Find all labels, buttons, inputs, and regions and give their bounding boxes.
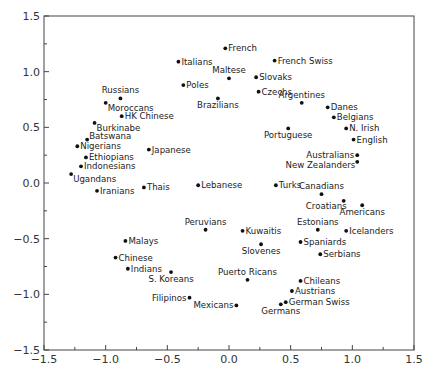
data-point: Slovenes [242, 242, 281, 256]
point-label: Brazilians [197, 100, 239, 110]
data-point: Malays [124, 236, 159, 246]
point-marker [204, 228, 208, 232]
point-label: Maltese [212, 65, 246, 75]
data-point: Belgians [332, 112, 374, 122]
data-point: Australians [306, 150, 359, 160]
data-point: Portuguese [264, 127, 312, 141]
point-label: Malays [128, 236, 158, 246]
point-label: Peruvians [185, 217, 227, 227]
data-point: Canadians [299, 181, 345, 196]
point-label: Slovaks [259, 72, 292, 82]
data-point: Serbians [318, 249, 361, 259]
data-point: N. Irish [344, 123, 379, 133]
y-tick-label: 1.0 [23, 66, 41, 79]
data-point: Indonesians [79, 161, 136, 171]
point-marker [223, 46, 227, 50]
data-point: Iranians [95, 186, 135, 196]
point-label: Filipinos [152, 293, 187, 303]
data-point: Nigerians [75, 141, 121, 151]
point-marker [79, 164, 83, 168]
point-label: S. Koreans [148, 274, 194, 284]
point-label: Spaniards [304, 237, 347, 247]
point-label: Russians [102, 85, 140, 95]
data-point: Poles [181, 80, 209, 90]
data-point: Chileans [299, 276, 341, 286]
data-point: Brazilians [197, 96, 239, 110]
y-tick-label: 0.0 [23, 177, 41, 190]
y-tick-label: −1.5 [13, 344, 40, 357]
point-marker [181, 83, 185, 87]
data-point: English [352, 135, 388, 145]
data-points: RussiansMoroccansHK ChineseBurkinabeBats… [69, 43, 394, 316]
point-marker [284, 300, 288, 304]
x-tick-label: −1.0 [92, 353, 119, 366]
point-label: HK Chinese [125, 111, 174, 121]
data-point: Indians [126, 264, 162, 274]
data-point: Icelanders [344, 226, 394, 236]
point-label: Japanese [151, 145, 191, 155]
point-label: Ugandans [73, 174, 117, 184]
point-label: Lebanese [201, 180, 242, 190]
point-marker [344, 229, 348, 233]
point-marker [355, 160, 359, 164]
point-label: French Swiss [278, 56, 334, 66]
point-marker [316, 228, 320, 232]
data-point: French Swiss [273, 56, 334, 66]
point-marker [326, 105, 330, 109]
point-label: Americans [340, 207, 386, 217]
point-label: Kuwaitis [246, 226, 282, 236]
y-tick-label: 0.5 [23, 121, 41, 134]
x-tick-label: 1.0 [344, 353, 362, 366]
point-marker [290, 289, 294, 293]
data-point: Turks [274, 180, 302, 190]
point-marker [235, 304, 239, 308]
point-marker [114, 256, 118, 260]
point-label: Thais [146, 182, 170, 192]
data-point: Spaniards [299, 237, 347, 247]
x-tick-label: 0.5 [282, 353, 300, 366]
point-marker [188, 296, 192, 300]
point-marker [318, 252, 322, 256]
point-label: New Zealanders [285, 160, 355, 170]
point-label: Slovenes [242, 246, 281, 256]
point-marker [344, 127, 348, 131]
point-label: Italians [181, 57, 213, 67]
point-marker [241, 229, 245, 233]
y-tick-label: −1.0 [13, 288, 40, 301]
point-label: Indonesians [84, 161, 136, 171]
point-marker [299, 279, 303, 283]
point-label: Poles [186, 80, 209, 90]
x-tick-label: 1.5 [405, 353, 423, 366]
point-label: Belgians [337, 112, 374, 122]
point-marker [274, 183, 278, 187]
data-point: Peruvians [185, 217, 227, 232]
point-marker [352, 138, 356, 142]
data-point: Maltese [212, 65, 246, 80]
point-label: French [228, 43, 257, 53]
point-label: Chinese [119, 253, 153, 263]
point-marker [332, 115, 336, 119]
data-point: Lebanese [196, 180, 242, 190]
scatter-chart: −1.5−1.0−0.50.00.51.01.5 1.51.00.50.0−0.… [0, 0, 432, 380]
data-point: French [223, 43, 256, 53]
data-point: Filipinos [152, 293, 191, 303]
data-point: Kuwaitis [241, 226, 282, 236]
point-label: Austrians [295, 286, 336, 296]
data-point: Puerto Ricans [218, 267, 277, 282]
data-point: Japanese [147, 145, 191, 155]
point-marker [300, 101, 304, 105]
data-point: Slovaks [254, 72, 292, 82]
point-label: Icelanders [349, 226, 394, 236]
point-marker [84, 155, 88, 159]
point-marker [355, 153, 359, 157]
point-marker [75, 144, 79, 148]
point-marker [95, 189, 99, 193]
point-label: Puerto Ricans [218, 267, 277, 277]
data-point: Russians [102, 85, 140, 100]
data-point: HK Chinese [120, 111, 174, 121]
point-label: Iranians [100, 186, 135, 196]
data-point: Ugandans [69, 172, 117, 184]
x-tick-label: −0.5 [154, 353, 181, 366]
data-point: Italians [177, 57, 214, 67]
point-label: Nigerians [80, 141, 121, 151]
